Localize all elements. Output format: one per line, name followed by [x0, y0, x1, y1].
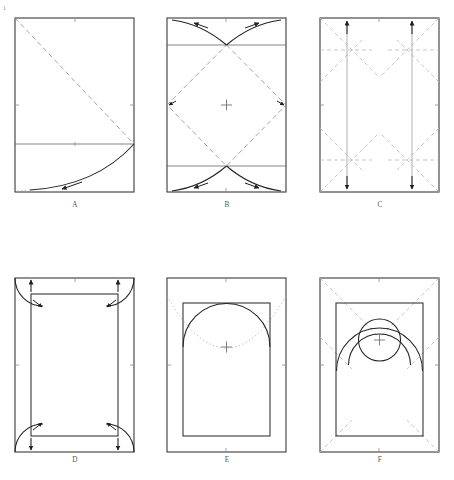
panel-f-inner-rect [336, 303, 423, 436]
panel-e-label: E [225, 456, 230, 464]
panel-c-diagonal-br-b [397, 128, 439, 170]
panel-b-arrow-left-vertex [169, 101, 176, 105]
panel-a-arc-tail [17, 190, 30, 191]
panel-b-label: B [224, 201, 229, 209]
panel-b-arc-bottom-right [227, 166, 282, 191]
panel-d-corner-arc-tl [15, 278, 43, 306]
panel-e-center-cross [221, 342, 232, 353]
panel-f-center-cross [374, 335, 385, 346]
panel-b-arrow-top-right [245, 23, 259, 28]
panel-c-diagonal-tl-b [320, 40, 362, 82]
panel-c-diagonal-tr-b [397, 40, 439, 82]
construction-diagram: 1 A B [0, 0, 454, 480]
panel-b-arrow-right-vertex [277, 101, 284, 105]
panel-a-diagonal-fold [15, 18, 134, 144]
figure-root: 1 A B [0, 0, 454, 480]
panel-a: A [15, 18, 134, 209]
panel-c-diagonal-tl-a [320, 18, 379, 77]
panel-c-diagonal-tr-a [380, 18, 439, 77]
panel-f-diagonal-tl [320, 278, 379, 337]
panel-a-outline [15, 18, 134, 192]
panel-c-outline [320, 18, 439, 192]
panel-b-arrow-bottom-left [194, 183, 208, 188]
panel-b-arc-top-left [172, 20, 227, 45]
panel-f-outline [320, 278, 439, 452]
panel-e-inner-rect [183, 303, 270, 436]
panel-c-diagonal-bl-a [320, 133, 379, 192]
panel-d-label: D [72, 456, 78, 464]
panel-d-corner-arc-bl [15, 424, 43, 452]
panel-a-label: A [72, 201, 78, 209]
panel-c: C [320, 18, 439, 209]
panel-e: E [167, 278, 286, 464]
panel-b-arc-top-right [227, 20, 282, 45]
panel-b-arrow-bottom-right [245, 183, 259, 188]
panel-c-diagonal-bl-b [320, 128, 362, 170]
panel-f-diagonal-tr [380, 278, 439, 337]
panel-d-corner-arc-br [106, 424, 134, 452]
panel-f-label: F [378, 456, 382, 464]
panel-b: B [167, 18, 286, 209]
panel-b-center-cross [221, 100, 232, 111]
panel-c-label: C [377, 201, 382, 209]
panel-b-arc-bottom-left [172, 166, 227, 191]
panel-b-arrow-top-left [194, 23, 208, 28]
panel-e-outline [167, 278, 286, 452]
panel-d-corner-arc-tr [106, 278, 134, 306]
panel-a-swing-arc [30, 144, 134, 190]
panel-c-diagonal-br-a [380, 133, 439, 192]
panel-d: D [15, 278, 134, 464]
sheet-corner-number: 1 [3, 5, 6, 11]
panel-e-arch [183, 304, 270, 348]
panel-f: F [320, 278, 439, 464]
panel-d-inner-rect [31, 294, 118, 436]
